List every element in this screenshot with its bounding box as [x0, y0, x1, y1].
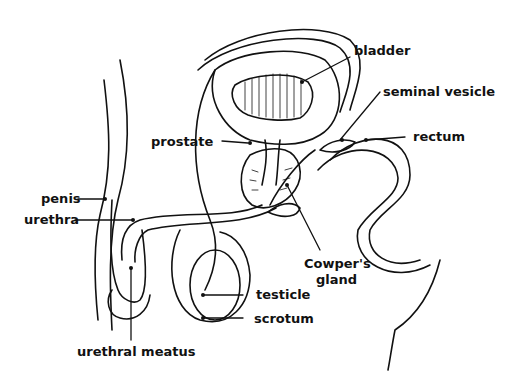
- label-scrotum: scrotum: [254, 312, 314, 326]
- label-seminal-vesicle: seminal vesicle: [383, 85, 495, 99]
- label-bladder: bladder: [354, 44, 410, 58]
- label-cowpers-gland-1: Cowper's: [304, 257, 371, 271]
- label-urethra: urethra: [24, 213, 79, 227]
- label-urethral-meatus: urethral meatus: [77, 345, 195, 359]
- label-testicle: testicle: [256, 288, 310, 302]
- label-cowpers-gland-2: gland: [316, 273, 357, 287]
- anatomy-drawing: [0, 0, 506, 375]
- anatomy-diagram: bladder seminal vesicle rectum prostate …: [0, 0, 506, 375]
- label-rectum: rectum: [413, 130, 465, 144]
- label-prostate: prostate: [151, 135, 213, 149]
- label-penis: penis: [41, 192, 81, 206]
